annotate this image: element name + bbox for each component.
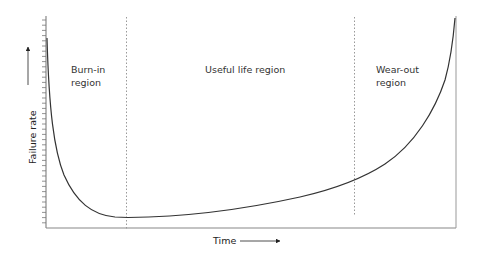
burn-in-label-line1: Burn-in [71,64,105,75]
y-axis-label-group: Failure rate [27,110,38,164]
y-axis-label: Failure rate [27,110,38,164]
burn-in-label-line2: region [71,77,101,88]
x-axis-label: Time [212,235,236,246]
wear-out-label-line1: Wear-out [376,64,419,75]
useful-life-label: Useful life region [205,64,285,75]
wear-out-label-line2: region [376,77,406,88]
bathtub-chart: Failure rate Time Burn-in region Useful … [0,0,477,253]
failure-rate-curve [47,18,455,218]
axes [46,16,456,228]
